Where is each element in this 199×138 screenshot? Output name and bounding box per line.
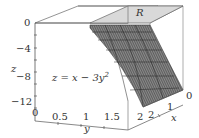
y-tick-0: 0 — [32, 108, 38, 118]
equation-label: z = x − 3y2 — [52, 72, 109, 83]
y-axis-line — [35, 121, 128, 130]
z-tick-neg8: −8 — [16, 72, 31, 82]
y-tick-1: 1 — [83, 112, 89, 122]
x-tick-1: 1 — [167, 102, 173, 112]
y-axis-label: y — [84, 124, 90, 134]
z-tick-neg12: −12 — [11, 97, 32, 107]
y-tick-1.5: 1.5 — [104, 112, 120, 122]
z-tick-0: 0 — [24, 18, 30, 28]
surface-plot: 0 −4 z −8 −12 z = x − 3y2 R 0 0.5 1 y 1.… — [0, 0, 199, 138]
y-tick-2: 2 — [137, 112, 143, 122]
x-axis-label: x — [171, 113, 177, 123]
y-tick-0.5: 0.5 — [52, 112, 68, 122]
z-tick-neg4: −4 — [16, 44, 31, 54]
x-tick-0: 0 — [186, 91, 192, 101]
surface-mesh — [90, 25, 183, 107]
x-tick-2: 2 — [148, 110, 154, 120]
region-label: R — [136, 8, 144, 18]
